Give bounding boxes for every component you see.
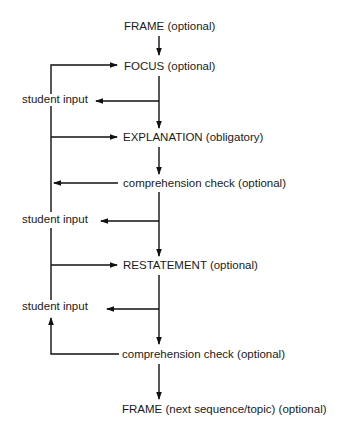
- node-explanation: EXPLANATION (obligatory): [123, 130, 263, 144]
- arrow-student-input-to-focus: [51, 65, 117, 94]
- node-student-input-3: student input: [22, 299, 88, 313]
- node-comprehension-check-2: comprehension check (optional): [122, 347, 285, 361]
- node-frame-start: FRAME (optional): [124, 19, 215, 33]
- node-restatement: RESTATEMENT (optional): [123, 258, 258, 272]
- flow-diagram: FRAME (optional) FOCUS (optional) studen…: [0, 0, 347, 430]
- arrow-check-2-to-student-input-3: [51, 318, 119, 354]
- node-frame-end: FRAME (next sequence/topic) (optional): [122, 402, 327, 416]
- node-comprehension-check-1: comprehension check (optional): [123, 176, 286, 190]
- node-focus: FOCUS (optional): [124, 59, 215, 73]
- node-student-input-1: student input: [22, 92, 88, 106]
- node-student-input-2: student input: [22, 212, 88, 226]
